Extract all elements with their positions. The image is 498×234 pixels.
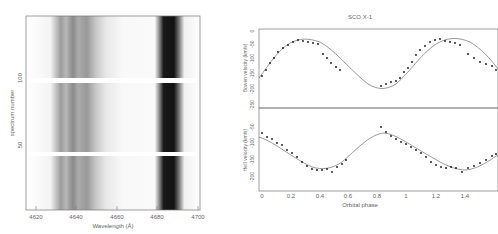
phase-tick-0.2: 0.2	[287, 193, 296, 199]
bowen-ytick-0: 0	[249, 29, 255, 32]
phase-tick-1.2: 1.2	[432, 193, 441, 199]
ytick-100: 100	[17, 72, 23, 83]
spectrogram-panel: 4620 4640 4660 4680 4700 Wavelength (Å) …	[9, 16, 205, 229]
heii-data-points	[261, 126, 497, 173]
heii-plot-frame	[259, 108, 498, 191]
spectrogram-image	[26, 16, 200, 210]
gap-band-lower	[26, 152, 200, 156]
heii-ytick-m50: -50	[249, 123, 255, 130]
plot-title: SCO X-1	[348, 14, 373, 20]
gap-band-upper	[26, 78, 200, 83]
heii-fit-curve	[259, 133, 498, 170]
bowen-ytick-m200: -200	[249, 84, 255, 94]
xtick-4700: 4700	[191, 214, 205, 220]
heii-y-axis-label: HeII velocity (km/s)	[242, 128, 248, 171]
phase-tick-0.6: 0.6	[344, 193, 353, 199]
bowen-data-points	[261, 38, 497, 87]
bowen-ytick-m50: -50	[249, 40, 255, 47]
phase-tick-0: 0	[260, 193, 264, 199]
heii-ytick-m150: -150	[249, 155, 255, 165]
phase-tick-0.4: 0.4	[316, 193, 325, 199]
phase-axis-label: Orbital phase	[342, 202, 378, 208]
radial-velocity-panel: SCO X-1	[242, 14, 498, 208]
phase-tick-1.4: 1.4	[461, 193, 470, 199]
heii-ytick-m100: -100	[249, 138, 255, 148]
y-axis-label: spectrum number	[9, 90, 15, 137]
ytick-50: 50	[17, 141, 23, 148]
xtick-4680: 4680	[150, 214, 164, 220]
heii-ytick-m200: -200	[249, 172, 255, 182]
x-axis-label: Wavelength (Å)	[92, 223, 133, 229]
phase-tick-0.8: 0.8	[373, 193, 382, 199]
xtick-4620: 4620	[29, 214, 43, 220]
bowen-ytick-m100: -100	[249, 54, 255, 64]
phase-tick-1: 1	[404, 193, 408, 199]
bowen-y-axis-label: Bowen velocity (km/s)	[242, 43, 248, 92]
bowen-ytick-m150: -150	[249, 69, 255, 79]
bowen-ytick-m250: -250	[249, 100, 255, 110]
xtick-4660: 4660	[110, 214, 124, 220]
figure: 4620 4640 4660 4680 4700 Wavelength (Å) …	[0, 0, 498, 234]
xtick-4640: 4640	[69, 214, 83, 220]
bowen-fit-curve	[259, 38, 498, 88]
